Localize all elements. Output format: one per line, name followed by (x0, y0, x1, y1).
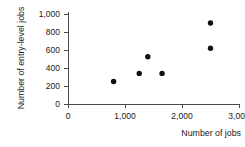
y-tick-label: 0 (55, 99, 60, 109)
x-tick-label: 3,000 (228, 111, 245, 121)
y-tick-label: 800 (46, 27, 60, 37)
x-tick-label: 1,000 (114, 111, 136, 121)
data-point (159, 71, 164, 76)
x-axis-title: Number of jobs (181, 128, 241, 138)
data-point (111, 79, 116, 84)
x-tick-label: 0 (66, 111, 71, 121)
data-point (145, 54, 150, 59)
y-axis-ticks: 0 200 400 600 800 1,000 (39, 9, 68, 109)
y-tick-label: 400 (46, 63, 60, 73)
y-tick-label: 600 (46, 45, 60, 55)
data-points-layer (111, 20, 213, 84)
data-point (208, 46, 213, 51)
x-axis-ticks: 0 1,000 2,000 3,000 (66, 104, 245, 121)
y-axis-title: Number of entry-level jobs (16, 6, 26, 109)
chart-canvas: 0 200 400 600 800 1,000 0 1,000 2,000 3,… (0, 0, 245, 147)
data-point (137, 71, 142, 76)
axes-group (68, 12, 239, 104)
y-tick-label: 1,000 (39, 9, 61, 19)
data-point (208, 20, 213, 25)
scatter-chart: 0 200 400 600 800 1,000 0 1,000 2,000 3,… (0, 0, 245, 147)
x-tick-label: 2,000 (171, 111, 193, 121)
y-tick-label: 200 (46, 81, 60, 91)
